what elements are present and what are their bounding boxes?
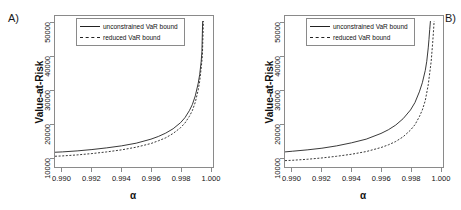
y-tick-label: 30000: [273, 90, 282, 111]
x-tick-label: 0.994: [112, 174, 131, 183]
solid-line-key: [310, 23, 330, 30]
figure-container: A) Value-at-Risk α 100002000030000400005…: [0, 0, 461, 210]
x-tick-label: 1.000: [202, 174, 221, 183]
x-tick-mark: [441, 168, 442, 172]
panel-b-tag: B): [445, 12, 456, 24]
x-tick-mark: [291, 168, 292, 172]
panel-a-tag: A): [8, 12, 19, 24]
solid-line-key: [80, 23, 100, 30]
y-tick-label: 10000: [43, 158, 52, 179]
x-tick-label: 0.992: [82, 174, 101, 183]
x-tick-mark: [411, 168, 412, 172]
legend-item-reduced: reduced VaR bound: [80, 33, 180, 42]
x-tick-label: 0.990: [282, 174, 301, 183]
dashed-line-key: [310, 34, 330, 41]
x-tick-mark: [91, 168, 92, 172]
x-tick-label: 0.992: [312, 174, 331, 183]
y-tick-label: 20000: [43, 124, 52, 145]
legend-item-unconstrained: unconstrained VaR bound: [310, 22, 410, 31]
legend-item-unconstrained: unconstrained VaR bound: [80, 22, 180, 31]
x-tick-label: 0.998: [172, 174, 191, 183]
y-tick-label: 20000: [273, 124, 282, 145]
panel-b-x-axis-label: α: [360, 190, 366, 201]
x-tick-mark: [121, 168, 122, 172]
y-tick-label: 50000: [273, 22, 282, 43]
y-tick-label: 40000: [43, 56, 52, 77]
x-tick-label: 0.994: [342, 174, 361, 183]
x-tick-mark: [351, 168, 352, 172]
x-tick-mark: [61, 168, 62, 172]
x-tick-mark: [181, 168, 182, 172]
panel-a-legend: unconstrained VaR bound reduced VaR boun…: [76, 18, 185, 46]
x-tick-label: 0.998: [402, 174, 421, 183]
legend-label-reduced: reduced VaR bound: [103, 33, 160, 42]
legend-item-reduced: reduced VaR bound: [310, 33, 410, 42]
legend-label-unconstrained: unconstrained VaR bound: [333, 22, 408, 31]
x-tick-label: 0.990: [52, 174, 71, 183]
x-tick-label: 1.000: [432, 174, 451, 183]
dashed-line-key: [80, 34, 100, 41]
x-tick-mark: [151, 168, 152, 172]
y-tick-label: 40000: [273, 56, 282, 77]
y-tick-label: 50000: [43, 22, 52, 43]
panel-b-legend: unconstrained VaR bound reduced VaR boun…: [306, 18, 415, 46]
x-tick-mark: [381, 168, 382, 172]
y-tick-label: 30000: [43, 90, 52, 111]
x-tick-label: 0.996: [372, 174, 391, 183]
x-tick-mark: [321, 168, 322, 172]
x-tick-label: 0.996: [142, 174, 161, 183]
panel-a-x-axis-label: α: [130, 190, 136, 201]
y-tick-label: 10000: [273, 158, 282, 179]
panel-a: A) Value-at-Risk α 100002000030000400005…: [0, 0, 230, 210]
panel-b: B) Value-at-Risk α 100002000030000400005…: [230, 0, 460, 210]
legend-label-unconstrained: unconstrained VaR bound: [103, 22, 178, 31]
x-tick-mark: [211, 168, 212, 172]
legend-label-reduced: reduced VaR bound: [333, 33, 390, 42]
